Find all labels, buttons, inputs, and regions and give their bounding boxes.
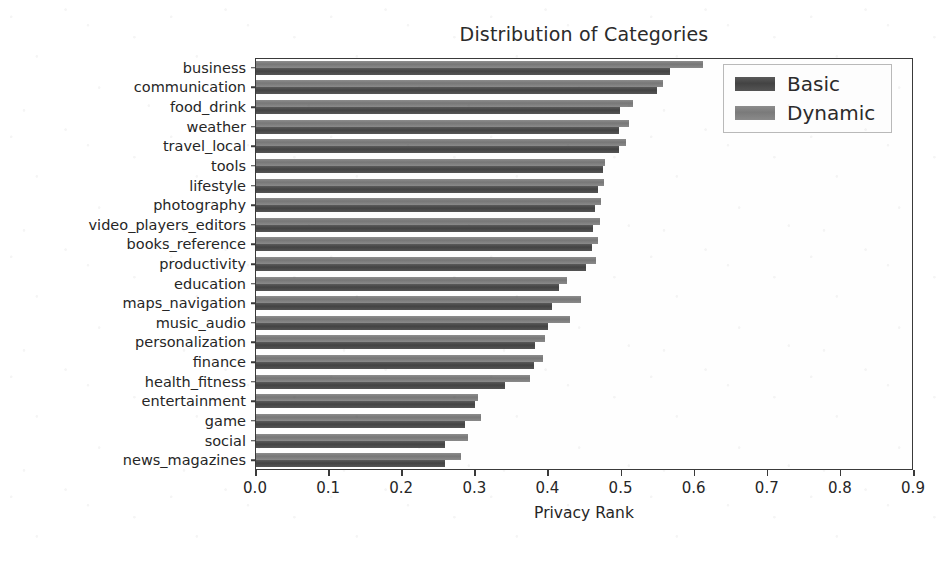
x-tick-mark: [621, 470, 623, 476]
bar-basic: [256, 362, 534, 369]
bar-basic: [256, 68, 670, 75]
x-tick-label: 0.7: [755, 479, 779, 497]
bar-basic: [256, 225, 593, 232]
x-tick-label: 0.1: [316, 479, 340, 497]
bar-basic: [256, 166, 603, 173]
bar-dynamic: [256, 277, 567, 284]
x-tick-mark: [474, 470, 476, 476]
bar-dynamic: [256, 198, 601, 205]
bar-basic: [256, 146, 619, 153]
bar-group: [256, 393, 912, 413]
bar-basic: [256, 284, 559, 291]
bar-dynamic: [256, 434, 468, 441]
chart-figure: Distribution of Categories businesscommu…: [0, 0, 943, 563]
bar-dynamic: [256, 375, 530, 382]
x-tick-mark: [767, 470, 769, 476]
bar-group: [256, 451, 912, 469]
bar-dynamic: [256, 335, 545, 342]
bar-dynamic: [256, 100, 633, 107]
x-tick-label: 0.8: [828, 479, 852, 497]
bar-dynamic: [256, 453, 461, 460]
bar-dynamic: [256, 237, 598, 244]
bar-basic: [256, 87, 657, 94]
bar-basic: [256, 401, 475, 408]
x-tick-mark: [401, 470, 403, 476]
legend-label: Dynamic: [787, 103, 875, 123]
bar-basic: [256, 323, 548, 330]
bar-dynamic: [256, 355, 543, 362]
legend-swatch-basic: [735, 77, 775, 91]
bar-group: [256, 334, 912, 354]
x-tick-mark: [328, 470, 330, 476]
x-tick-label: 0.3: [462, 479, 486, 497]
bar-basic: [256, 460, 445, 467]
bar-basic: [256, 342, 535, 349]
bar-dynamic: [256, 179, 604, 186]
bar-group: [256, 373, 912, 393]
x-tick-label: 0.2: [389, 479, 413, 497]
bar-group: [256, 177, 912, 197]
x-tick-mark: [255, 470, 257, 476]
x-tick-mark: [913, 470, 915, 476]
bar-basic: [256, 303, 552, 310]
bar-basic: [256, 441, 445, 448]
bar-group: [256, 353, 912, 373]
bar-group: [256, 236, 912, 256]
x-tick-label: 0.5: [609, 479, 633, 497]
chart-legend: BasicDynamic: [723, 64, 892, 133]
bar-dynamic: [256, 296, 581, 303]
bar-basic: [256, 244, 592, 251]
x-tick-mark: [840, 470, 842, 476]
bar-dynamic: [256, 120, 629, 127]
x-tick-label: 0.6: [682, 479, 706, 497]
bar-group: [256, 157, 912, 177]
bar-dynamic: [256, 394, 478, 401]
legend-item[interactable]: Dynamic: [735, 103, 875, 123]
legend-item[interactable]: Basic: [735, 74, 875, 94]
legend-label: Basic: [787, 74, 840, 94]
bar-group: [256, 294, 912, 314]
bar-group: [256, 216, 912, 236]
x-tick-mark: [694, 470, 696, 476]
x-tick-label: 0.0: [243, 479, 267, 497]
bar-dynamic: [256, 414, 481, 421]
x-tick-mark: [547, 470, 549, 476]
bar-group: [256, 432, 912, 452]
chart-title: Distribution of Categories: [255, 23, 913, 45]
bar-dynamic: [256, 61, 703, 68]
bar-dynamic: [256, 316, 570, 323]
bar-group: [256, 412, 912, 432]
x-axis-title: Privacy Rank: [255, 504, 913, 522]
bar-basic: [256, 382, 505, 389]
bar-basic: [256, 421, 465, 428]
bar-dynamic: [256, 159, 605, 166]
bar-group: [256, 314, 912, 334]
bar-basic: [256, 127, 619, 134]
bar-dynamic: [256, 218, 600, 225]
x-tick-label: 0.9: [901, 479, 925, 497]
x-tick-label: 0.4: [536, 479, 560, 497]
bar-dynamic: [256, 80, 663, 87]
bar-basic: [256, 205, 595, 212]
bar-dynamic: [256, 257, 596, 264]
bar-basic: [256, 186, 598, 193]
bar-group: [256, 196, 912, 216]
legend-swatch-dynamic: [735, 106, 775, 120]
bar-group: [256, 275, 912, 295]
bar-basic: [256, 264, 586, 271]
y-axis-ticks: [0, 58, 260, 470]
bar-basic: [256, 107, 620, 114]
bar-group: [256, 255, 912, 275]
bar-dynamic: [256, 139, 626, 146]
bar-group: [256, 137, 912, 157]
